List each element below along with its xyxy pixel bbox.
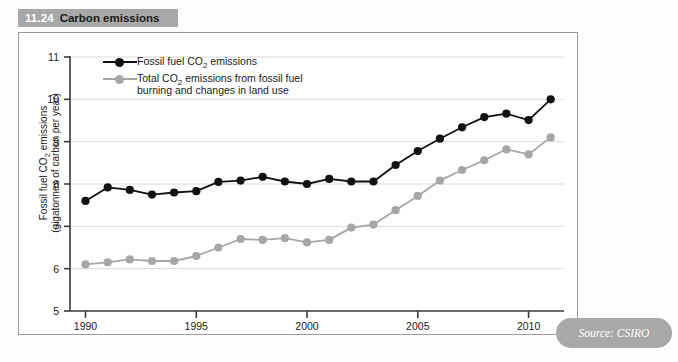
data-point-total bbox=[81, 260, 89, 268]
y-axis-tick-label: 5 bbox=[53, 305, 59, 317]
data-point-total bbox=[281, 234, 289, 242]
legend-item-fossil-fuel: Fossil fuel CO2 emissions bbox=[103, 55, 303, 68]
x-axis-tick-label: 2000 bbox=[295, 320, 319, 332]
data-point-fossil-fuel bbox=[414, 147, 422, 155]
chart-legend: Fossil fuel CO2 emissions Total CO2 emis… bbox=[103, 55, 303, 100]
data-point-fossil-fuel bbox=[303, 180, 311, 188]
legend-item-total: Total CO2 emissions from fossil fuelburn… bbox=[103, 72, 303, 96]
data-point-fossil-fuel bbox=[502, 110, 510, 118]
y-axis-tick-label: 7 bbox=[53, 220, 59, 232]
data-point-total bbox=[458, 166, 466, 174]
data-point-total bbox=[502, 145, 510, 153]
y-axis-tick-label: 11 bbox=[48, 51, 59, 63]
data-point-fossil-fuel bbox=[192, 187, 200, 195]
data-point-fossil-fuel bbox=[170, 188, 178, 196]
data-point-total bbox=[414, 192, 422, 200]
data-point-total bbox=[259, 236, 267, 244]
data-point-fossil-fuel bbox=[347, 177, 355, 185]
data-point-fossil-fuel bbox=[214, 178, 222, 186]
data-point-total bbox=[214, 243, 222, 251]
data-point-fossil-fuel bbox=[392, 161, 400, 169]
data-point-total bbox=[547, 133, 555, 141]
x-axis-tick-label: 1995 bbox=[185, 320, 209, 332]
x-axis-tick-label: 2010 bbox=[517, 320, 541, 332]
data-point-fossil-fuel bbox=[436, 135, 444, 143]
source-label: Source: CSIRO bbox=[579, 327, 650, 339]
y-axis-tick-label: 6 bbox=[53, 263, 59, 275]
figure-number: 11.24 bbox=[25, 12, 54, 24]
y-axis-tick-label: 9 bbox=[53, 136, 59, 148]
data-point-fossil-fuel bbox=[480, 113, 488, 121]
data-point-fossil-fuel bbox=[325, 175, 333, 183]
data-point-total bbox=[347, 224, 355, 232]
data-point-total bbox=[170, 257, 178, 265]
data-point-total bbox=[237, 235, 245, 243]
data-point-fossil-fuel bbox=[104, 183, 112, 191]
page-title: Carbon emissions bbox=[60, 12, 160, 24]
data-point-fossil-fuel bbox=[458, 123, 466, 131]
series-line-fossil-fuel bbox=[86, 99, 551, 201]
data-point-total bbox=[392, 206, 400, 214]
data-point-fossil-fuel bbox=[259, 173, 267, 181]
data-point-fossil-fuel bbox=[126, 186, 134, 194]
y-axis-tick-label: 8 bbox=[53, 178, 59, 190]
data-point-total bbox=[480, 156, 488, 164]
data-point-total bbox=[104, 258, 112, 266]
data-point-total bbox=[369, 221, 377, 229]
figure-carbon-emissions: 11.24 Carbon emissions 56789101119901995… bbox=[0, 0, 678, 362]
chart-container: 56789101119901995200020052010 Fossil fue… bbox=[18, 32, 578, 335]
data-point-total bbox=[436, 177, 444, 185]
x-axis-tick-label: 1990 bbox=[74, 320, 98, 332]
data-point-fossil-fuel bbox=[369, 177, 377, 185]
legend-marker-fossil-fuel-icon bbox=[103, 56, 137, 68]
data-point-total bbox=[192, 252, 200, 260]
data-point-fossil-fuel bbox=[237, 177, 245, 185]
legend-marker-total-icon bbox=[103, 73, 137, 85]
data-point-total bbox=[303, 238, 311, 246]
x-axis-tick-label: 2005 bbox=[406, 320, 430, 332]
data-point-total bbox=[126, 255, 134, 263]
y-axis-tick-label: 10 bbox=[47, 93, 59, 105]
data-point-fossil-fuel bbox=[81, 197, 89, 205]
data-point-total bbox=[525, 150, 533, 158]
data-point-fossil-fuel bbox=[525, 116, 533, 124]
figure-title-bar: 11.24 Carbon emissions bbox=[18, 9, 178, 27]
data-point-total bbox=[325, 236, 333, 244]
data-point-fossil-fuel bbox=[547, 95, 555, 103]
legend-label-fossil-fuel: Fossil fuel CO2 emissions bbox=[137, 55, 257, 67]
legend-label-total: Total CO2 emissions from fossil fuelburn… bbox=[137, 72, 303, 96]
data-point-total bbox=[148, 257, 156, 265]
data-point-fossil-fuel bbox=[148, 191, 156, 199]
source-badge: Source: CSIRO bbox=[556, 318, 672, 348]
series-line-total bbox=[86, 137, 551, 264]
data-point-fossil-fuel bbox=[281, 177, 289, 185]
